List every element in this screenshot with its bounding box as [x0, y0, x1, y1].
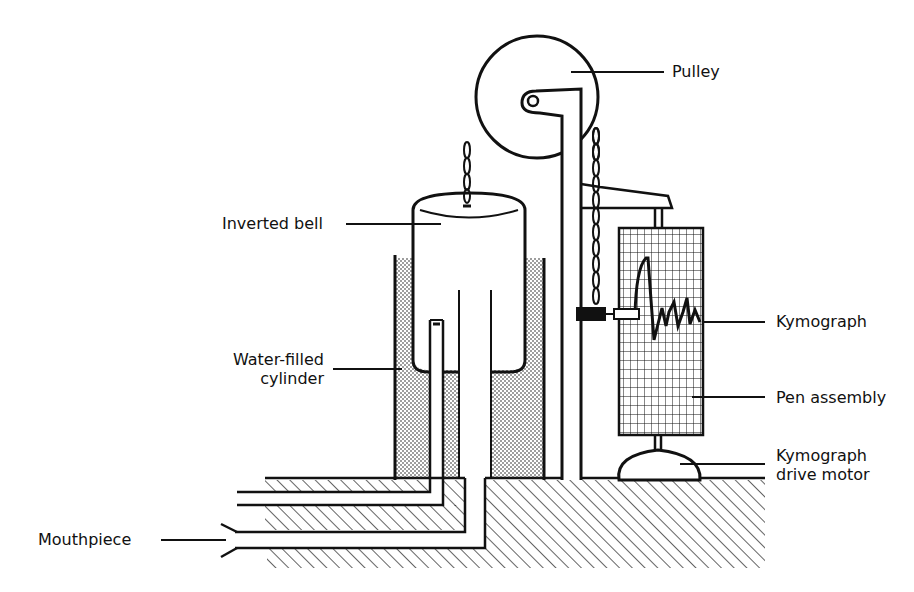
label-water-filled-cylinder: Water-filled cylinder: [200, 350, 324, 388]
label-pulley: Pulley: [672, 62, 720, 81]
spirometer-diagram: Pulley Inverted bell Kymograph Water-fil…: [0, 0, 914, 592]
chain-left: [463, 142, 471, 206]
label-drive-motor-line2: drive motor: [776, 465, 870, 484]
label-drive-motor-line1: Kymograph: [776, 446, 870, 465]
pen-assembly: [576, 307, 639, 321]
kymograph-drum: [619, 228, 703, 435]
label-kymograph: Kymograph: [776, 312, 867, 331]
label-water-filled-line2: cylinder: [200, 369, 324, 388]
diagram-drawing: [0, 0, 914, 592]
kymograph-drive-motor: [619, 435, 700, 480]
label-kymograph-drive-motor: Kymograph drive motor: [776, 446, 870, 484]
label-inverted-bell: Inverted bell: [222, 214, 323, 233]
label-mouthpiece: Mouthpiece: [38, 530, 131, 549]
label-water-filled-line1: Water-filled: [200, 350, 324, 369]
label-pen-assembly: Pen assembly: [776, 388, 886, 407]
